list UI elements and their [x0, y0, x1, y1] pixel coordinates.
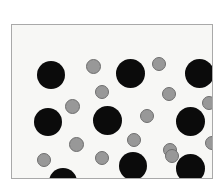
small-gray-dot — [95, 151, 109, 165]
large-black-dot — [49, 168, 77, 179]
small-gray-dot — [86, 59, 101, 74]
large-black-dot — [176, 154, 205, 180]
small-gray-dot — [202, 96, 213, 110]
figure-root — [0, 0, 224, 189]
large-black-dot — [93, 106, 122, 135]
small-gray-dot — [65, 99, 80, 114]
small-gray-dot — [69, 137, 84, 152]
small-gray-dot — [165, 149, 179, 163]
plot-frame — [11, 24, 213, 179]
small-gray-dot — [152, 57, 166, 71]
large-black-dot — [119, 152, 147, 179]
small-gray-dot — [205, 136, 213, 150]
large-black-dot — [37, 61, 65, 89]
small-gray-dot — [95, 85, 109, 99]
large-black-dot — [34, 108, 62, 136]
small-gray-dot — [127, 133, 141, 147]
large-black-dot — [116, 59, 145, 88]
small-gray-dot — [162, 87, 176, 101]
small-gray-dot — [140, 109, 154, 123]
large-black-dot — [185, 59, 214, 88]
small-gray-dot — [37, 153, 51, 167]
large-black-dot — [176, 107, 205, 136]
